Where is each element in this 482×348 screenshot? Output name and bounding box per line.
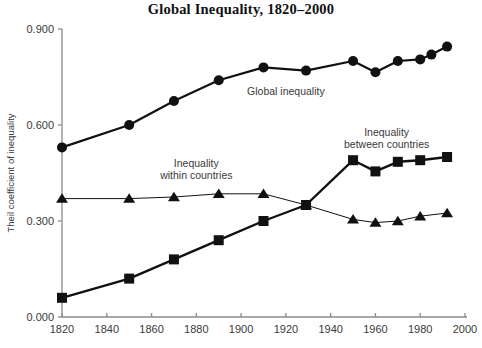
y-axis: 0.0000.3000.6000.900 — [26, 23, 62, 323]
y-axis-tick-label: 0.600 — [26, 119, 54, 131]
y-axis-tick-label: 0.000 — [26, 311, 54, 323]
data-point-marker — [441, 208, 453, 217]
chart-container: Global Inequality, 1820–2000 0.0000.3000… — [0, 0, 482, 348]
data-point-marker — [348, 155, 358, 165]
annotation-line: Inequality — [174, 157, 220, 169]
data-point-marker — [442, 42, 452, 52]
data-point-marker — [214, 235, 224, 245]
data-point-marker — [426, 50, 436, 60]
annotation-line: between countries — [344, 138, 429, 150]
data-point-marker — [259, 216, 269, 226]
x-axis-tick-label: 1860 — [139, 323, 163, 335]
x-axis-tick-label: 1980 — [408, 323, 432, 335]
series-line — [62, 194, 447, 223]
y-axis-title-group: Theil coefficient of inequality — [5, 113, 16, 232]
annotation-line: within countries — [159, 169, 232, 181]
data-point-marker — [370, 166, 380, 176]
data-point-marker — [169, 254, 179, 264]
data-point-marker — [57, 293, 67, 303]
data-point-marker — [124, 274, 134, 284]
x-axis-tick-label: 1880 — [184, 323, 208, 335]
data-point-marker — [370, 67, 380, 77]
chart-series-group — [56, 42, 453, 303]
data-point-marker — [213, 189, 225, 198]
data-point-marker — [415, 155, 425, 165]
data-point-marker — [56, 193, 68, 202]
chart-series — [57, 152, 452, 303]
data-point-marker — [301, 66, 311, 76]
x-axis: 1820184018601880190019201940196019802000 — [50, 313, 477, 335]
series-line — [62, 157, 447, 298]
x-axis-tick-label: 1920 — [274, 323, 298, 335]
annotation-line: Inequality — [364, 126, 410, 138]
data-point-marker — [124, 120, 134, 130]
chart-plot-area: 0.0000.3000.6000.900 1820184018601880190… — [0, 0, 482, 348]
y-axis-title: Theil coefficient of inequality — [5, 113, 16, 232]
series-annotation-label: Inequalitywithin countries — [159, 157, 232, 181]
data-point-marker — [393, 157, 403, 167]
data-point-marker — [348, 56, 358, 66]
x-axis-tick-label: 1960 — [363, 323, 387, 335]
x-axis-tick-label: 1820 — [50, 323, 74, 335]
data-point-marker — [57, 142, 67, 152]
x-axis-tick-label: 1840 — [95, 323, 119, 335]
data-point-marker — [347, 214, 359, 223]
data-point-marker — [442, 152, 452, 162]
data-point-marker — [393, 56, 403, 66]
series-annotation-label: Global inequality — [247, 85, 325, 97]
y-axis-tick-label: 0.300 — [26, 215, 54, 227]
x-axis-tick-label: 2000 — [453, 323, 477, 335]
data-point-marker — [214, 75, 224, 85]
x-axis-tick-label: 1900 — [229, 323, 253, 335]
data-point-marker — [259, 62, 269, 72]
chart-series — [56, 189, 453, 227]
data-point-marker — [169, 96, 179, 106]
x-axis-tick-label: 1940 — [318, 323, 342, 335]
y-axis-tick-label: 0.900 — [26, 23, 54, 35]
data-point-marker — [415, 54, 425, 64]
series-annotation-label: Inequalitybetween countries — [344, 126, 429, 150]
data-point-marker — [258, 189, 270, 198]
